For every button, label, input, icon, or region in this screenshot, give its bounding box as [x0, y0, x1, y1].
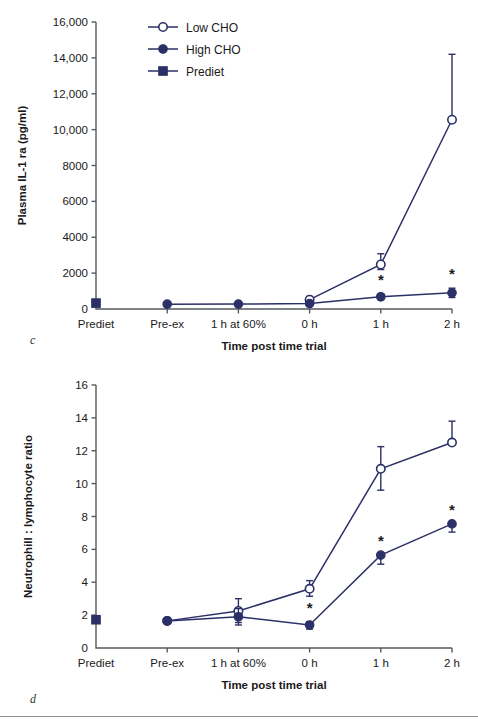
y-tick-label: 12	[75, 445, 88, 457]
y-tick-label: 8	[82, 511, 88, 523]
x-axis-title: Time post time trial	[221, 679, 326, 691]
filled-circle-marker	[234, 613, 242, 621]
y-tick-label: 14	[75, 412, 88, 424]
legend-item-low-cho: Low CHO	[148, 21, 238, 35]
series-prediet	[92, 299, 100, 307]
y-axis-title: Plasma IL-1 ra (pg/ml)	[16, 106, 28, 226]
y-axis-ticks: 0200040006000800010,00012,00014,00016,00…	[53, 16, 96, 315]
filled-circle-marker	[159, 45, 167, 53]
x-tick-label: 2 h	[444, 318, 460, 330]
open-circle-marker	[448, 438, 456, 446]
x-tick-label: Pre-ex	[150, 657, 184, 669]
axis-lines	[96, 385, 452, 648]
filled-square-marker	[159, 67, 167, 75]
y-tick-label: 10	[75, 478, 88, 490]
y-tick-label: 2	[82, 609, 88, 621]
filled-square-marker	[92, 616, 100, 624]
figure-bottom-rule	[0, 716, 478, 717]
open-circle-marker	[305, 585, 313, 593]
x-tick-label: 1 h at 60%	[211, 318, 266, 330]
legend-label: Prediet	[186, 65, 225, 79]
legend-label: High CHO	[186, 43, 241, 57]
series-low-cho	[163, 421, 456, 625]
x-tick-label: 0 h	[302, 657, 318, 669]
x-tick-label: Prediet	[78, 657, 115, 669]
filled-circle-marker	[377, 293, 385, 301]
y-tick-label: 14,000	[53, 52, 88, 64]
significance-asterisk: *	[378, 271, 384, 288]
x-tick-label: Prediet	[78, 318, 115, 330]
x-tick-label: Pre-ex	[150, 318, 184, 330]
y-axis-ticks: 0246810121416	[75, 379, 96, 654]
y-tick-label: 0	[82, 303, 88, 315]
open-circle-marker	[159, 23, 167, 31]
filled-circle-marker	[163, 300, 171, 308]
panel-letter-c: c	[30, 333, 35, 348]
filled-circle-marker	[448, 520, 456, 528]
y-axis-title: Neutrophill : lymphocyte ratio	[22, 435, 34, 598]
filled-circle-marker	[234, 300, 242, 308]
x-tick-label: 0 h	[302, 318, 318, 330]
x-tick-label: 1 h	[373, 657, 389, 669]
series-high-cho: **	[163, 265, 456, 308]
y-tick-label: 16,000	[53, 16, 88, 28]
open-circle-marker	[377, 465, 385, 473]
significance-asterisk: *	[449, 265, 455, 282]
significance-asterisk: *	[449, 501, 455, 518]
x-tick-label: 2 h	[444, 657, 460, 669]
y-tick-label: 8000	[62, 160, 88, 172]
axes-group	[96, 385, 452, 648]
filled-circle-marker	[377, 551, 385, 559]
x-axis-title: Time post time trial	[221, 340, 326, 352]
legend-label: Low CHO	[186, 21, 238, 35]
open-circle-marker	[448, 116, 456, 124]
filled-circle-marker	[305, 621, 313, 629]
y-tick-label: 6000	[62, 195, 88, 207]
y-tick-label: 6	[82, 543, 88, 555]
x-tick-label: 1 h	[373, 318, 389, 330]
error-bar	[449, 54, 456, 119]
significance-asterisk: *	[378, 532, 384, 549]
series-low-cho	[305, 54, 456, 304]
filled-circle-marker	[305, 299, 313, 307]
significance-asterisk: *	[307, 599, 313, 616]
neutrophil-lymphocyte-plot: 0246810121416PredietPre-ex1 h at 60%0 h1…	[0, 363, 478, 726]
series-high-cho: ***	[163, 501, 456, 629]
panel-d: 0246810121416PredietPre-ex1 h at 60%0 h1…	[0, 363, 478, 726]
series-prediet	[92, 616, 100, 624]
y-tick-label: 4000	[62, 231, 88, 243]
filled-circle-marker	[448, 289, 456, 297]
filled-square-marker	[92, 299, 100, 307]
panel-c: 0200040006000800010,00012,00014,00016,00…	[0, 0, 478, 363]
open-circle-marker	[377, 260, 385, 268]
y-tick-label: 2000	[62, 267, 88, 279]
plasma-il1ra-plot: 0200040006000800010,00012,00014,00016,00…	[0, 0, 478, 363]
y-tick-label: 12,000	[53, 88, 88, 100]
axes-group	[96, 22, 452, 309]
x-axis-ticks: PredietPre-ex1 h at 60%0 h1 h2 h	[78, 648, 460, 669]
filled-circle-marker	[163, 617, 171, 625]
y-tick-label: 0	[82, 642, 88, 654]
x-axis-ticks: PredietPre-ex1 h at 60%0 h1 h2 h	[78, 309, 460, 330]
legend: Low CHOHigh CHOPrediet	[148, 21, 241, 79]
y-tick-label: 10,000	[53, 124, 88, 136]
y-tick-label: 16	[75, 379, 88, 391]
panel-letter-d: d	[30, 692, 36, 707]
legend-item-prediet: Prediet	[148, 65, 225, 79]
axis-lines	[96, 22, 452, 309]
y-tick-label: 4	[82, 576, 89, 588]
x-tick-label: 1 h at 60%	[211, 657, 266, 669]
figure-container: 0200040006000800010,00012,00014,00016,00…	[0, 0, 478, 726]
legend-item-high-cho: High CHO	[148, 43, 241, 57]
